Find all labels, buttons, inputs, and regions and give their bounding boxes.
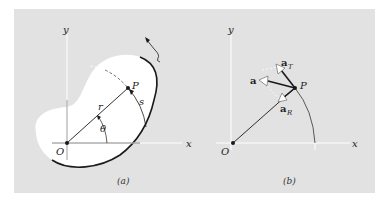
path-arc-b [295, 88, 315, 143]
point-p-label-b: P [299, 80, 307, 91]
origin-point [65, 141, 69, 145]
y-axis-label: y [62, 24, 69, 35]
rotation-arrow-icon [146, 39, 160, 62]
rigid-body [35, 55, 157, 167]
accel-label: a [250, 75, 257, 86]
y-axis-label-b: y [227, 24, 234, 35]
caption-b: (b) [283, 176, 296, 186]
panel-b: y x O P a a T a R (b) [216, 24, 358, 186]
vector-a-radial [284, 88, 295, 97]
tangential-subscript: T [288, 63, 294, 71]
point-p-b [293, 86, 297, 90]
construction-line-1 [262, 67, 278, 70]
radial-accel-label: a [280, 103, 287, 114]
tangential-accel-label: a [281, 57, 288, 68]
origin-label: O [56, 146, 64, 157]
point-p-label: P [131, 80, 139, 91]
origin-point-b [231, 141, 235, 145]
arc-length-label: s [139, 96, 144, 107]
rotation-arrowhead [145, 37, 150, 43]
panel-a: y x O P r θ s (a) [35, 24, 192, 186]
x-axis-label: x [186, 138, 192, 149]
origin-label-b: O [221, 146, 229, 157]
point-p [126, 86, 130, 90]
x-axis-label-b: x [352, 138, 358, 149]
radial-subscript: R [286, 109, 293, 117]
diagram-canvas: y x O P r θ s (a) y x O P [0, 0, 386, 204]
arrowhead-a-radial [278, 93, 287, 102]
arrowhead-a [259, 76, 268, 86]
caption-a: (a) [117, 176, 130, 186]
angle-label: θ [100, 123, 106, 134]
